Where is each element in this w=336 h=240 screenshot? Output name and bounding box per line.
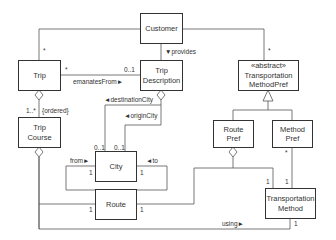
class-transportation-method-pref: «abstract» Transportation MethodPref bbox=[238, 60, 299, 91]
mult-route-right: 1 bbox=[140, 206, 144, 214]
class-tm-line1: Transportation bbox=[266, 194, 314, 204]
class-trip-description: Trip Description bbox=[140, 60, 183, 91]
generalization-triangle bbox=[263, 90, 273, 101]
label-destination-city: ◄destinationCity bbox=[104, 96, 153, 104]
mult-city-to: 1 bbox=[140, 169, 144, 177]
class-trip: Trip bbox=[18, 60, 61, 91]
class-route-pref-line2: Pref bbox=[227, 134, 241, 144]
class-method-pref-line2: Pref bbox=[286, 134, 300, 144]
class-trip-description-line2: Description bbox=[143, 76, 181, 86]
class-trip-name: Trip bbox=[33, 71, 46, 81]
mult-route-left: 1 bbox=[89, 206, 93, 214]
stereotype-abstract: «abstract» bbox=[251, 61, 286, 71]
mult-city-from: 1 bbox=[89, 169, 93, 177]
class-method-pref: Method Pref bbox=[272, 120, 313, 148]
class-tmp-line3: MethodPref bbox=[249, 80, 288, 90]
label-origin-city: ◄originCity bbox=[124, 112, 158, 120]
label-ordered: {ordered} bbox=[42, 107, 69, 115]
label-using: using► bbox=[222, 220, 244, 228]
tripcourse-aggregation-diamond bbox=[35, 147, 43, 157]
class-route: Route bbox=[95, 189, 137, 220]
customer-trip-association bbox=[39, 29, 140, 60]
class-tmp-line2: Transportation bbox=[244, 71, 292, 81]
mult-tm-routepref: 1 bbox=[266, 178, 270, 186]
class-tm-line2: Method bbox=[278, 204, 303, 214]
class-route-pref-line1: Route bbox=[223, 125, 243, 135]
mult-customer-trip: * bbox=[43, 47, 46, 55]
class-city-name: City bbox=[110, 162, 123, 172]
class-transportation-method: Transportation Method bbox=[265, 188, 316, 219]
generalization-branches bbox=[233, 110, 292, 120]
mult-city-origin: 0..1 bbox=[114, 144, 125, 152]
class-method-pref-line1: Method bbox=[280, 125, 305, 135]
route-routepref-line bbox=[136, 168, 233, 204]
mult-customer-tmp: * bbox=[268, 47, 271, 55]
class-trip-description-line1: Trip bbox=[155, 66, 168, 76]
class-route-pref: Route Pref bbox=[213, 120, 254, 148]
mult-trip-emanates: * bbox=[65, 66, 68, 74]
using-association bbox=[39, 218, 290, 229]
tripdesc-aggregation-diamond bbox=[157, 90, 165, 100]
class-city: City bbox=[95, 151, 137, 182]
mult-tripdesc-emanates: 0..1 bbox=[124, 66, 135, 74]
mult-tm-methodpref: 1 bbox=[285, 178, 289, 186]
routepref-aggregation-diamond bbox=[229, 147, 237, 157]
mult-tm-using: 1 bbox=[294, 220, 298, 228]
mult-method-pref: * bbox=[285, 149, 288, 157]
class-trip-course-line1: Trip bbox=[33, 123, 46, 133]
mult-city-dest: 0..1 bbox=[94, 144, 105, 152]
class-trip-course-line2: Course bbox=[27, 133, 51, 143]
mult-trip-course: 1..* bbox=[26, 107, 36, 115]
class-customer-name: Customer bbox=[145, 24, 178, 34]
trip-aggregation-diamond bbox=[35, 90, 43, 100]
class-customer: Customer bbox=[140, 13, 183, 44]
label-from: from► bbox=[70, 157, 89, 165]
label-emanates-from: emanatesFrom► bbox=[73, 78, 123, 86]
label-to: ◄to bbox=[146, 157, 158, 165]
class-trip-course: Trip Course bbox=[18, 117, 61, 148]
label-provides: ▼provides bbox=[165, 48, 196, 56]
class-route-name: Route bbox=[106, 200, 126, 210]
